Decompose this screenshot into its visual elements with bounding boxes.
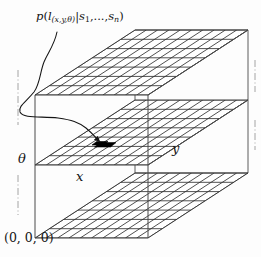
origin-close-paren: ) bbox=[49, 230, 54, 245]
grid-plane-top bbox=[35, 30, 248, 95]
origin-zero-2: 0 bbox=[25, 230, 33, 245]
grid-plane-bottom bbox=[35, 173, 248, 238]
pose-grid-diagram bbox=[0, 0, 261, 257]
grid-plane-middle bbox=[35, 100, 248, 165]
axis-label-x: x bbox=[76, 170, 83, 183]
origin-comma-2: , bbox=[33, 230, 41, 245]
posterior-close-paren: ) bbox=[119, 9, 124, 23]
origin-zero-3: 0 bbox=[41, 230, 49, 245]
figure-container: p(l(x,y,θ)|s1,...,sn) θ x y (0, 0, 0) bbox=[0, 0, 261, 257]
axis-label-theta: θ bbox=[18, 152, 26, 165]
posterior-label: p(l(x,y,θ)|s1,...,sn) bbox=[36, 11, 124, 24]
origin-zero-1: 0 bbox=[9, 230, 17, 245]
axis-label-y: y bbox=[172, 142, 179, 155]
posterior-l-subscript: (x,y,θ) bbox=[52, 15, 76, 24]
posterior-ellipsis: ,..., bbox=[90, 9, 108, 23]
origin-comma-1: , bbox=[17, 230, 25, 245]
origin-label: (0, 0, 0) bbox=[4, 232, 54, 245]
